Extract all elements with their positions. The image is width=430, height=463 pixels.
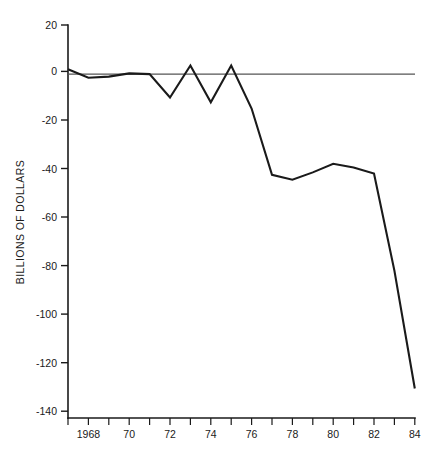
y-tick-label: 20 [45,19,57,31]
y-tick-label: -40 [42,163,57,175]
y-tick-label: -60 [42,211,57,223]
y-tick-label: 0 [51,65,57,77]
x-tick-label: 82 [368,428,380,440]
x-tick-label: 84 [409,428,421,440]
y-axis-title: BILLIONS OF DOLLARS [14,160,26,284]
x-tick-label: 80 [327,428,339,440]
x-tick-label: 1968 [77,428,101,440]
x-tick-label: 76 [246,428,258,440]
y-tick-label: -120 [36,357,57,369]
data-series-line [68,66,415,389]
x-tick-label: 74 [205,428,217,440]
y-tick-label: -20 [42,114,57,126]
y-tick-label: -140 [36,405,57,417]
x-tick-label: 78 [287,428,299,440]
line-chart: 20 0 -20 -40 -60 -80 -100 -120 -140 [0,0,430,463]
y-tick-label: -100 [36,308,57,320]
x-axis-ticks [68,418,415,425]
y-tick-label: -80 [42,260,57,272]
y-axis-ticks [61,25,68,411]
x-tick-label: 72 [164,428,176,440]
x-tick-label: 70 [123,428,135,440]
chart-container: 20 0 -20 -40 -60 -80 -100 -120 -140 [0,0,430,463]
